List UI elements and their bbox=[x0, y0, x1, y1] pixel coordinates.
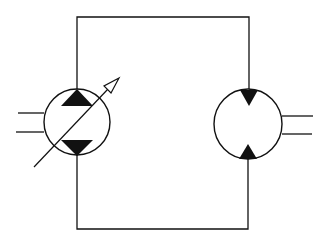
hydraulic-diagram bbox=[0, 0, 326, 243]
lower-return-line bbox=[77, 155, 248, 229]
variable-pump bbox=[16, 78, 119, 167]
fixed-motor bbox=[214, 89, 313, 159]
diagram-canvas bbox=[0, 0, 326, 243]
upper-pressure-line bbox=[77, 17, 249, 89]
